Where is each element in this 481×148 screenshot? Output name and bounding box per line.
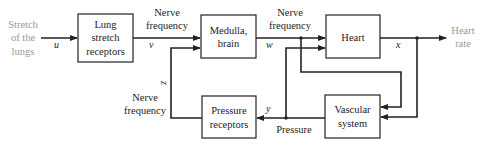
svg-text:frequency: frequency <box>146 20 189 31</box>
signal-z: z <box>159 80 170 85</box>
signal-v: v <box>149 39 154 50</box>
block-diagram: Stretch of the lungs u Lung stretch rece… <box>0 0 481 148</box>
block-pressure-receptors: Pressure receptors <box>202 96 256 138</box>
svg-text:Heart: Heart <box>451 25 474 36</box>
svg-text:system: system <box>338 118 367 129</box>
input-label-stretch-of-lungs: Stretch of the lungs <box>8 19 38 57</box>
label-nerve-frequency-v: Nerve frequency <box>146 7 189 31</box>
svg-text:stretch: stretch <box>92 32 121 43</box>
svg-text:Stretch: Stretch <box>8 19 38 30</box>
svg-text:Pressure: Pressure <box>211 105 247 116</box>
svg-text:Medulla,: Medulla, <box>210 25 248 36</box>
svg-text:lungs: lungs <box>12 46 35 57</box>
output-label-heart-rate: Heart rate <box>451 25 474 49</box>
svg-text:rate: rate <box>455 38 471 49</box>
svg-text:Nerve: Nerve <box>277 7 303 18</box>
label-pressure: Pressure <box>276 124 312 135</box>
label-nerve-frequency-w: Nerve frequency <box>269 7 312 31</box>
signal-w: w <box>266 39 273 50</box>
arrow-y-to-heart <box>286 48 325 118</box>
svg-text:Nerve: Nerve <box>154 7 180 18</box>
svg-text:of the: of the <box>11 32 36 43</box>
svg-text:Heart: Heart <box>341 32 364 43</box>
block-lung-stretch-receptors: Lung stretch receptors <box>78 14 133 62</box>
signal-y: y <box>265 103 271 114</box>
svg-text:Lung: Lung <box>94 19 117 30</box>
svg-text:frequency: frequency <box>269 20 312 31</box>
svg-text:brain: brain <box>218 38 240 49</box>
signal-u: u <box>54 39 59 50</box>
svg-text:frequency: frequency <box>124 105 167 116</box>
arrow-z <box>171 48 202 118</box>
svg-text:receptors: receptors <box>210 119 248 130</box>
svg-text:Nerve: Nerve <box>132 92 158 103</box>
block-medulla-brain: Medulla, brain <box>201 15 256 58</box>
label-nerve-frequency-z: Nerve frequency <box>124 92 167 116</box>
block-vascular-system: Vascular system <box>325 95 380 138</box>
svg-text:receptors: receptors <box>86 46 124 57</box>
svg-text:Vascular: Vascular <box>334 104 371 115</box>
signal-x: x <box>395 39 401 50</box>
block-heart: Heart <box>326 15 380 58</box>
